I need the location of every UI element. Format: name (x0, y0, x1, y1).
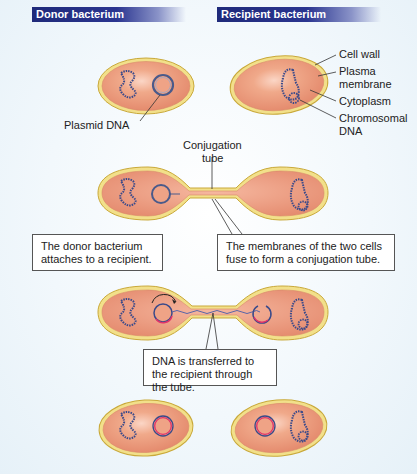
cytoplasm-label: Cytoplasm (339, 95, 391, 108)
plasmid-icon (255, 416, 275, 436)
recipient-cell-row4 (229, 396, 330, 460)
plasmid-icon (152, 185, 170, 203)
plasma-membrane-label-line2: membrane (339, 78, 392, 91)
caption-step1: The donor bacterium attaches to a recipi… (32, 234, 163, 271)
conjugating-cells-row2 (98, 167, 328, 220)
recipient-cell-row1 (227, 51, 331, 119)
donor-cell-row4 (98, 398, 195, 459)
plasma-membrane-label-line1: Plasma (339, 65, 376, 78)
donor-cell-row1 (98, 58, 194, 114)
chromosomal-dna-label-line2: DNA (339, 125, 362, 138)
plasmid-icon (153, 75, 173, 95)
chromosomal-dna-label-line1: Chromosomal (339, 112, 407, 125)
conjugation-tube-label-line1: Conjugation (183, 139, 242, 152)
plasmid-dna-label: Plasmid DNA (64, 119, 129, 132)
plasmid-icon (153, 416, 173, 436)
cell-wall-label: Cell wall (339, 48, 380, 61)
conjugation-tube-label-line2: tube (202, 152, 223, 165)
caption-step3: DNA is transferred to the recipient thro… (143, 349, 277, 386)
caption-step2: The membranes of the two cells fuse to f… (217, 234, 395, 271)
